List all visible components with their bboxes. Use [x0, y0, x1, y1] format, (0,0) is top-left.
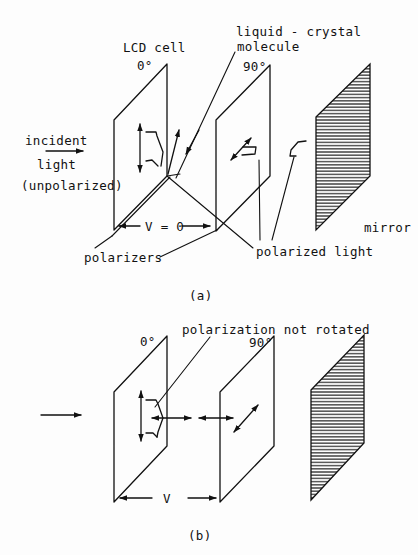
polarized-light-leader-1: [167, 176, 253, 248]
leader-joint: [167, 174, 180, 176]
caption-b: (b): [188, 528, 211, 543]
lcd-polarization-diagram: LCD cell liquid - crystal molecule 0° 90…: [0, 0, 418, 555]
caption-a: (a): [189, 288, 212, 303]
lc-molecule-label-line2: molecule: [237, 39, 300, 54]
reflected-polarization-arrow-icon: [231, 138, 251, 160]
polarized-light-leader-3: [272, 157, 294, 240]
lc-molecule-tail-icon: [146, 160, 158, 166]
polarized-light-leader-2: [259, 160, 260, 240]
polarized-light-label: polarized light: [256, 244, 373, 259]
lc-molecule-leader: [176, 52, 235, 178]
polarization-note-leader: [155, 337, 210, 407]
polarizer-90-panel-b: [220, 336, 274, 502]
mirror-label: mirror: [364, 220, 411, 235]
lcd-cell-label: LCD cell: [123, 40, 186, 55]
lc-molecule-label-line1: liquid - crystal: [236, 24, 361, 39]
lc-molecule-tail-b-icon: [146, 433, 157, 437]
figure-a: LCD cell liquid - crystal molecule 0° 90…: [21, 24, 411, 303]
angle-90-label-b: 90°: [249, 335, 272, 350]
polarizer-90-panel: [216, 65, 270, 231]
angle-0-label-b: 0°: [140, 334, 156, 349]
voltage-label: V = 0: [145, 219, 184, 234]
rotated-polarization-arrow-icon: [168, 130, 179, 174]
polarizers-leader-1: [95, 236, 112, 248]
unpolarized-label: (unpolarized): [21, 178, 123, 193]
incident-label: incident: [25, 133, 88, 148]
mirror-b: [311, 335, 364, 500]
angle-0-label: 0°: [137, 58, 153, 73]
light-label: light: [37, 157, 76, 172]
mirror-a: [316, 64, 370, 230]
voltage-label-b: V: [163, 491, 171, 506]
reflected-chain-icon: [290, 141, 306, 156]
lc-chain-b-icon: [242, 147, 256, 155]
polarizers-label: polarizers: [84, 250, 162, 265]
polarizers-leader-2: [160, 230, 217, 257]
figure-b: polarization not rotated 0° 90° V (b): [41, 322, 370, 543]
polarization-note-label: polarization not rotated: [182, 322, 370, 337]
blocked-polarization-arrow-icon: [234, 405, 258, 432]
